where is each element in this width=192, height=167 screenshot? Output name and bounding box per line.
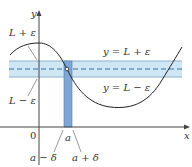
left-label-upper: L + ε bbox=[8, 27, 36, 38]
x-label-a-minus-delta: a − δ bbox=[30, 152, 57, 163]
y-axis-arrow-icon bbox=[37, 10, 42, 16]
x-axis-label: x bbox=[184, 130, 190, 141]
x-label-a: a bbox=[65, 132, 71, 143]
y-axis-label: y bbox=[30, 8, 37, 19]
left-label-lower: L − ε bbox=[8, 95, 36, 106]
pointer-a-plus bbox=[73, 130, 81, 152]
pointer-a-minus bbox=[54, 130, 63, 152]
band-label-lower: y = L − ε bbox=[102, 82, 150, 93]
point-a-L bbox=[65, 67, 69, 71]
x-axis-arrow-icon bbox=[184, 125, 190, 130]
pointer-upper bbox=[28, 46, 37, 60]
pointer-lower bbox=[28, 79, 37, 96]
band-label-upper: y = L + ε bbox=[102, 46, 150, 57]
x-label-a-plus-delta: a + δ bbox=[72, 152, 99, 163]
epsilon-delta-diagram: y x 0 L + ε L − ε y = L + ε y = L − ε a … bbox=[0, 0, 192, 167]
origin-label: 0 bbox=[30, 130, 36, 141]
